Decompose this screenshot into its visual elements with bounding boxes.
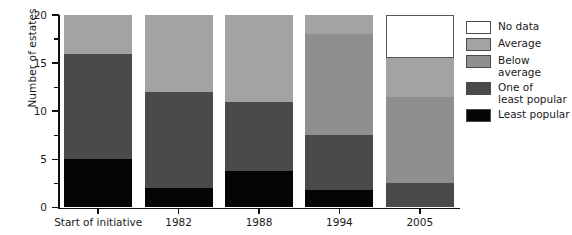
- x-tick: [419, 208, 421, 214]
- x-tick: [258, 208, 260, 214]
- stacked-bar-chart: Number of estates 05101520 Start of init…: [0, 0, 572, 235]
- bar-segment-least-popular: [145, 188, 213, 207]
- bar-segment-below-average: [386, 97, 454, 184]
- y-tick-label: 20: [34, 10, 47, 21]
- legend-label: Below average: [498, 54, 572, 78]
- x-tick-label-2005: 2005: [406, 217, 433, 228]
- x-tick-label-1982: 1982: [165, 217, 192, 228]
- bar-segment-one-of-least-popular: [225, 102, 293, 171]
- bar-segment-no-data: [386, 15, 454, 58]
- y-tick-15: 15: [52, 62, 59, 64]
- x-tick: [178, 208, 180, 214]
- bar-2005[interactable]: [386, 15, 454, 207]
- legend-label: Least popular: [498, 108, 570, 120]
- y-tick-minor: [54, 87, 59, 88]
- bar-1994[interactable]: [305, 15, 373, 207]
- legend-item-average[interactable]: Average: [466, 37, 572, 51]
- legend-item-below-average[interactable]: Below average: [466, 54, 572, 78]
- plot-area: 05101520 Start of initiative198219881994…: [58, 15, 460, 209]
- bar-segment-one-of-least-popular: [305, 135, 373, 190]
- y-tick-label: 10: [34, 106, 47, 117]
- legend-label: One of least popular: [498, 81, 567, 105]
- bar-segment-least-popular: [225, 171, 293, 208]
- x-tick-label-start-of-initiative: Start of initiative: [54, 217, 142, 228]
- y-tick-minor: [54, 38, 59, 39]
- x-tick-label-1988: 1988: [246, 217, 273, 228]
- y-tick-20: 20: [52, 14, 59, 16]
- legend-label: No data: [498, 20, 539, 32]
- chart-legend: No dataAverageBelow averageOne of least …: [466, 20, 572, 125]
- legend-swatch: [466, 109, 491, 122]
- y-axis-line: [58, 15, 60, 209]
- bar-segment-one-of-least-popular: [386, 183, 454, 207]
- legend-item-one-of-least-popular[interactable]: One of least popular: [466, 81, 572, 105]
- y-tick-0: 0: [52, 207, 59, 209]
- bar-segment-below-average: [305, 34, 373, 135]
- bar-segment-average: [145, 15, 213, 92]
- y-tick-10: 10: [52, 110, 59, 112]
- bar-segment-least-popular: [305, 190, 373, 207]
- y-tick-label: 0: [40, 202, 47, 213]
- y-tick-minor: [54, 183, 59, 184]
- y-tick-label: 5: [40, 154, 47, 165]
- legend-item-no-data[interactable]: No data: [466, 20, 572, 34]
- y-tick-label: 15: [34, 58, 47, 69]
- bar-segment-least-popular: [64, 159, 132, 207]
- bar-1988[interactable]: [225, 15, 293, 207]
- bar-1982[interactable]: [145, 15, 213, 207]
- bar-start-of-initiative[interactable]: [64, 15, 132, 207]
- legend-item-least-popular[interactable]: Least popular: [466, 108, 572, 122]
- legend-swatch: [466, 55, 491, 68]
- legend-swatch: [466, 38, 491, 51]
- x-tick: [97, 208, 99, 214]
- legend-label: Average: [498, 37, 541, 49]
- bar-segment-average: [305, 15, 373, 34]
- legend-swatch: [466, 21, 491, 34]
- bar-segment-average: [225, 15, 293, 102]
- y-tick-5: 5: [52, 159, 59, 161]
- x-tick-label-1994: 1994: [326, 217, 353, 228]
- bar-segment-one-of-least-popular: [145, 92, 213, 188]
- legend-swatch: [466, 82, 491, 95]
- bar-segment-one-of-least-popular: [64, 54, 132, 160]
- bar-segment-average: [386, 58, 454, 96]
- x-tick: [339, 208, 341, 214]
- bar-segment-average: [64, 15, 132, 53]
- y-tick-minor: [54, 135, 59, 136]
